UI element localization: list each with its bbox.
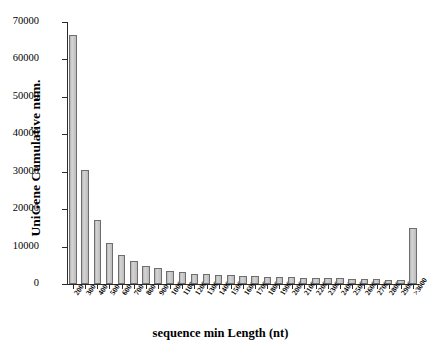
bar [336,278,344,284]
bar [81,170,89,284]
bar [179,272,187,284]
bar [361,279,369,284]
bar [94,220,102,284]
bar [227,275,235,284]
plot-area: 010000200003000040000500006000070000 200… [67,22,419,284]
bar [142,266,150,284]
y-axis-tick [62,172,67,173]
y-axis-tick-label: 50000 [0,90,39,101]
y-axis-tick-label: 70000 [0,15,39,26]
y-axis-tick-label: 20000 [0,202,39,213]
bar [239,276,247,284]
y-axis-tick-label: 40000 [0,127,39,138]
bar [118,255,126,284]
y-axis-tick-label: 10000 [0,240,39,251]
x-axis-title: sequence min Length (nt) [0,326,441,341]
y-axis-tick [62,59,67,60]
bar [251,276,259,284]
y-axis-tick [62,97,67,98]
bar [409,228,417,284]
y-axis-tick [62,209,67,210]
y-axis-tick-label: 60000 [0,52,39,63]
bar [154,268,162,284]
y-axis-tick [62,284,67,285]
bar [130,261,138,284]
y-axis-tick [62,134,67,135]
bar [106,243,114,284]
y-axis-tick [62,22,67,23]
chart-figure: UniGene Cumulative num. 0100002000030000… [0,0,441,350]
bar [264,277,272,284]
bar [276,277,284,284]
y-axis-tick-label: 0 [0,277,39,288]
y-axis-tick-label: 30000 [0,165,39,176]
bar [166,271,174,284]
bar [203,274,211,284]
bar [300,278,308,284]
bar [215,275,223,284]
bar [191,274,199,284]
y-axis-line [67,22,68,284]
bar [324,278,332,284]
bar [348,279,356,284]
y-axis-tick [62,247,67,248]
bar [397,280,405,284]
bar [385,280,393,284]
bar [373,279,381,284]
bar [288,277,296,284]
bar [69,35,77,284]
bar [312,278,320,284]
